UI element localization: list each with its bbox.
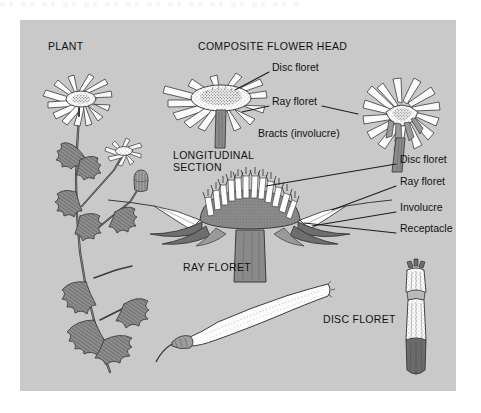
ray-floret-detail-illustration xyxy=(156,281,335,362)
callout-section-disc-floret: Disc floret xyxy=(400,153,447,165)
heading-ray-floret: RAY FLORET xyxy=(183,261,251,273)
callout-section-ray-floret: Ray floret xyxy=(400,175,445,187)
disc-floret-detail-illustration xyxy=(406,259,426,375)
scan-artifact-strip xyxy=(0,2,300,7)
callout-section-involucre: Involucre xyxy=(400,201,443,213)
plant-whole-illustration xyxy=(43,74,149,372)
heading-composite-flower-head: COMPOSITE FLOWER HEAD xyxy=(198,40,347,52)
heading-disc-floret: DISC FLORET xyxy=(323,313,396,325)
heading-longitudinal-section-line1: LONGITUDINAL xyxy=(173,149,254,161)
callout-head-bracts: Bracts (involucre) xyxy=(258,127,340,139)
figure-panel: PLANT COMPOSITE FLOWER HEAD LONGITUDINAL… xyxy=(20,20,456,391)
plant-flower-head-large xyxy=(43,74,112,126)
heading-plant: PLANT xyxy=(48,40,83,52)
diagram-canvas xyxy=(20,20,456,391)
plant-flower-head-small xyxy=(105,138,142,166)
callout-head-disc-floret: Disc floret xyxy=(272,61,319,73)
flower-head-side-illustration xyxy=(163,73,267,148)
heading-longitudinal-section-line2: SECTION xyxy=(173,161,222,173)
callout-head-ray-floret: Ray floret xyxy=(272,95,317,107)
callout-section-receptacle: Receptacle xyxy=(400,222,453,234)
botanical-figure: PLANT COMPOSITE FLOWER HEAD LONGITUDINAL… xyxy=(0,0,481,413)
plant-flower-bud xyxy=(134,170,148,192)
